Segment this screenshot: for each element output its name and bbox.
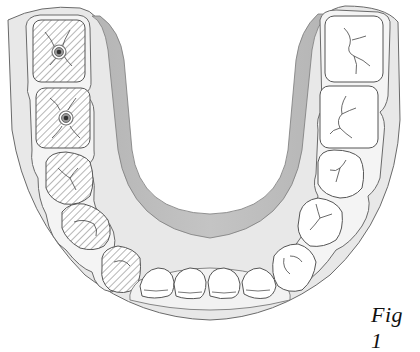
tooth-right-premolar-1: [298, 198, 342, 246]
tooth-right-molar-1: [325, 16, 383, 82]
tooth-left-molar-2: [36, 88, 90, 148]
figure-label: Fig 1: [371, 302, 420, 352]
tooth-right-molar-2: [320, 86, 378, 148]
implant-marker-icon: [52, 45, 66, 59]
tooth-right-premolar-2: [318, 150, 364, 198]
tooth-incisor-2: [174, 268, 206, 299]
incisors-group: [130, 268, 291, 310]
tooth-incisor-3: [208, 268, 240, 299]
tooth-left-premolar-1: [46, 152, 93, 204]
tooth-left-molar-1: [33, 20, 85, 82]
implant-marker-icon: [59, 111, 73, 125]
